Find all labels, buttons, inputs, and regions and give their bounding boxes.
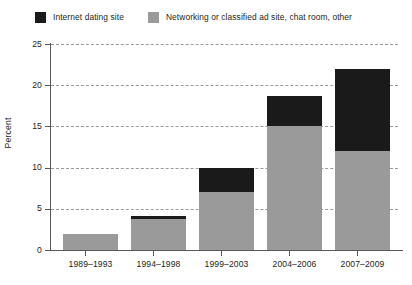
bar-segment-networking-or-classified (199, 192, 254, 250)
bar-1994-1998 (131, 216, 186, 250)
bar-segment-networking-or-classified (335, 151, 390, 250)
y-tick-label: 5 (24, 204, 42, 213)
x-axis-line (45, 250, 403, 251)
y-tick-label: 0 (24, 246, 42, 255)
x-tick-mark (85, 250, 86, 256)
gridline-25 (51, 44, 398, 45)
y-tick-label: 25 (24, 40, 42, 49)
y-tick-label: 15 (24, 122, 42, 131)
x-tick-mark (153, 250, 154, 256)
bar-segment-internet-dating-site (199, 168, 254, 193)
bar-segment-networking-or-classified (267, 126, 322, 250)
bar-segment-internet-dating-site (267, 96, 322, 127)
bar-2007-2009 (335, 69, 390, 250)
bar-segment-internet-dating-site (335, 69, 390, 151)
y-axis-title: Percent (3, 98, 13, 168)
bar-segment-networking-or-classified (131, 219, 186, 250)
x-tick-mark (289, 250, 290, 256)
x-tick-mark (221, 250, 222, 256)
plot-area (51, 44, 398, 250)
y-axis-tick-labels: 25 20 15 10 5 0 (20, 0, 42, 285)
y-tick-label: 20 (24, 81, 42, 90)
y-tick-label: 10 (24, 163, 42, 172)
bar-1999-2003 (199, 168, 254, 250)
x-tick-label-2007-2009: 2007–2009 (323, 259, 403, 270)
bar-2004-2006 (267, 96, 322, 250)
x-tick-mark (357, 250, 358, 256)
stacked-bar-chart: Percent 25 20 15 10 5 0 (0, 0, 412, 285)
bar-segment-networking-or-classified (63, 234, 118, 251)
bar-1989-1993 (63, 234, 118, 251)
